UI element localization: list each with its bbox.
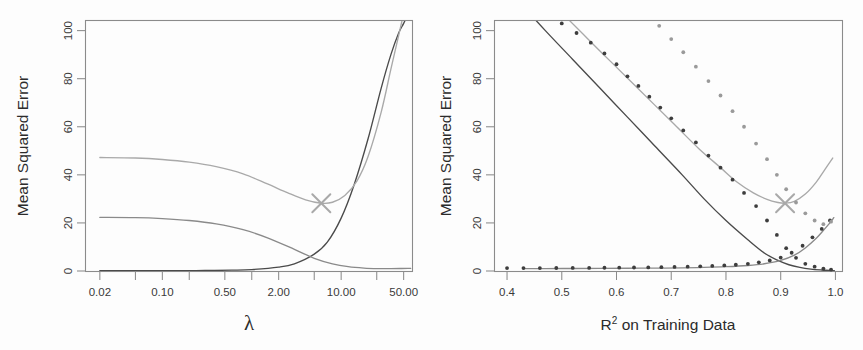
data-point [813,219,817,223]
y-tick-label: 20 [62,217,74,230]
data-point [757,260,761,264]
data-point [765,157,769,161]
left-plot-svg: 0.020.100.502.0010.0050.00 020406080100 … [0,0,432,350]
data-point [784,246,788,250]
data-point [734,263,738,267]
data-point [681,50,685,54]
data-point [829,268,833,272]
x-tick-label: 0.50 [214,286,236,298]
data-point [707,79,711,83]
y-tick-label: 40 [62,168,74,181]
data-point [686,265,690,269]
x-tick-label: 0.9 [773,286,789,298]
data-point [821,267,825,271]
right-y-tick-labels: 020406080100 [471,21,483,274]
data-point [794,256,798,260]
data-point [775,233,779,237]
data-point [603,266,607,270]
left-plot-panel: 0.020.100.502.0010.0050.00 020406080100 … [0,0,432,350]
data-point [794,201,798,205]
left-plot-frame [86,21,413,272]
figure-container: 0.020.100.502.0010.0050.00 020406080100 … [0,0,863,350]
data-point [803,262,807,266]
data-point [813,265,817,269]
data-point [669,37,673,41]
y-tick-label: 40 [471,168,483,181]
right-x-axis-title-rest: on Training Data [622,316,736,333]
data-point [647,95,651,99]
x-tick-label: 2.00 [267,286,289,298]
data-point [603,52,607,56]
data-point [742,191,746,195]
data-point [681,128,685,132]
data-point [589,41,593,45]
data-point [587,266,591,270]
y-tick-label: 0 [62,268,74,274]
x-tick-label: 0.02 [89,286,111,298]
y-tick-label: 100 [471,21,483,40]
data-point [754,204,758,208]
data-point [538,266,542,270]
data-point [659,265,663,269]
data-point [658,106,662,110]
series-curve [570,21,833,203]
data-point [768,259,772,263]
x-tick-label: 1.0 [827,286,843,298]
x-tick-label: 0.7 [663,286,679,298]
x-tick-label: 0.6 [609,286,625,298]
data-point [829,220,833,224]
data-point [742,125,746,129]
left-axis-ticks [77,31,404,280]
right-x-tick-labels: 0.40.50.60.70.80.91.0 [499,286,843,298]
data-point [731,178,735,182]
data-point [754,142,758,146]
data-point [803,211,807,215]
data-point [722,264,726,268]
data-point [673,265,677,269]
series-curve [523,218,833,269]
x-tick-label: 0.10 [151,286,173,298]
left-series-group [100,0,411,271]
right-y-axis-title: Mean Squared Error [437,76,454,216]
right-plot-svg: 0.40.50.60.70.80.91.0 020406080100 R2 on… [431,0,863,350]
data-point [765,219,769,223]
series-curve [523,7,834,271]
right-x-axis-title: R2 on Training Data [601,315,736,333]
right-points-group [505,22,833,272]
series-curve [100,7,411,271]
left-x-axis-title: λ [244,311,255,335]
x-tick-label: 0.5 [554,286,570,298]
right-x-axis-title-base: R [601,316,612,333]
y-tick-label: 80 [471,72,483,85]
series-curve [100,0,411,203]
data-point [821,222,825,226]
y-tick-label: 60 [62,120,74,133]
y-tick-label: 100 [62,21,74,40]
x-tick-label: 0.4 [499,286,516,298]
data-point [657,24,661,28]
data-point [646,265,650,269]
data-point [560,22,564,26]
x-tick-label: 0.8 [718,286,734,298]
data-point [626,74,630,78]
data-point [637,84,641,88]
data-point [775,173,779,177]
data-point [710,264,714,268]
right-plot-panel: 0.40.50.60.70.80.91.0 020406080100 R2 on… [431,0,863,350]
right-axis-ticks [486,31,835,280]
data-point [790,251,794,255]
left-x-tick-labels: 0.020.100.502.0010.0050.00 [89,286,418,298]
y-tick-label: 0 [471,268,483,274]
x-tick-label: 10.00 [327,286,356,298]
data-point [811,235,815,239]
series-curve [100,217,411,268]
right-plot-frame [495,21,843,272]
data-point [746,262,750,266]
data-point [820,227,824,231]
data-point [505,266,509,270]
data-point [617,266,621,270]
data-point [669,116,673,120]
data-point [571,266,575,270]
data-point [694,65,698,69]
data-point [554,266,558,270]
